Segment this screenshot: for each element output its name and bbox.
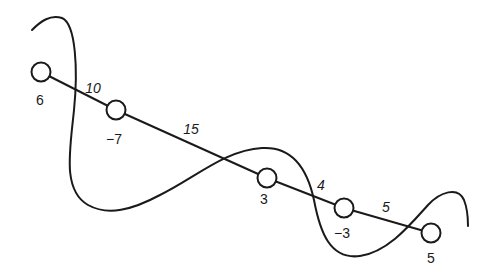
graph-node-5	[422, 224, 441, 243]
node-label-1: 6	[36, 93, 44, 107]
node-label-5: 5	[427, 251, 435, 265]
graph-edge-3	[267, 178, 344, 208]
edge-weight-2: 15	[183, 122, 199, 136]
graph-edge-1	[41, 72, 116, 110]
edge-weight-3: 4	[317, 178, 325, 192]
node-label-2: −7	[106, 132, 122, 146]
edge-weight-1: 10	[85, 81, 101, 95]
edge-weight-4: 5	[382, 200, 390, 214]
graph-node-1	[32, 63, 51, 82]
cut-curve	[32, 17, 468, 256]
node-label-3: 3	[260, 192, 268, 206]
graph-diagram	[0, 0, 491, 279]
graph-node-3	[258, 169, 277, 188]
node-label-4: −3	[334, 226, 350, 240]
graph-node-4	[335, 199, 354, 218]
graph-node-2	[107, 101, 126, 120]
